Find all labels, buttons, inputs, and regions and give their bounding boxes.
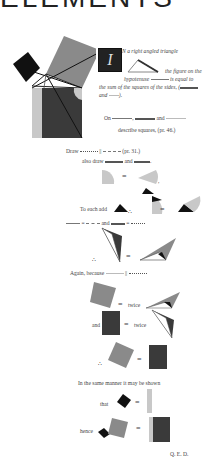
intro-line-4: the sum of the squares of the sides, ( (99, 84, 198, 91)
qed-label: Q. E. D. (170, 451, 189, 458)
intro-line-3: hypotenuse is equal to (124, 76, 193, 83)
hence-squares (96, 414, 136, 440)
triangle-icon (126, 58, 160, 74)
to-each-add-label: To each add (80, 206, 107, 213)
dark-rectangle-2 (148, 344, 168, 370)
hence-rectangle (148, 416, 172, 444)
triangle-equality (100, 226, 200, 266)
dark-rectangle (101, 310, 121, 336)
black-square (115, 392, 133, 410)
intro-line-5: and ). (99, 92, 122, 99)
header-title-cut: ELEMENTS (0, 0, 207, 12)
angle-equality-row (100, 168, 170, 186)
grey-square-2 (106, 340, 136, 370)
dark-triangle (150, 308, 180, 340)
grey-triangle (144, 290, 184, 310)
also-draw-line: also draw and . (82, 158, 151, 165)
intro-line-1: N a right angled triangle (122, 48, 178, 55)
light-strip (146, 388, 154, 414)
intro-line-2: the figure on the (165, 68, 202, 75)
pythagoras-diagram (8, 30, 96, 142)
construction-on-line: On , and (104, 115, 186, 122)
again-because-line: Again, because =|| (70, 270, 147, 277)
grey-square (88, 280, 118, 310)
same-manner-line: In the same manner it may be shown (78, 380, 160, 387)
draw-line: Draw || (pr. 31.) (66, 148, 140, 155)
describe-squares-line: describe squares, (pr. 46.) (118, 127, 175, 134)
drop-cap: I (98, 48, 122, 72)
